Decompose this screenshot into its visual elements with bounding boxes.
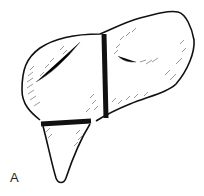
- horizontal-division-line: [41, 121, 91, 124]
- panel-label: A: [10, 170, 19, 185]
- caudate-lobe: [43, 124, 90, 183]
- liver-drawing: [0, 0, 204, 196]
- vertical-division-line: [104, 34, 106, 118]
